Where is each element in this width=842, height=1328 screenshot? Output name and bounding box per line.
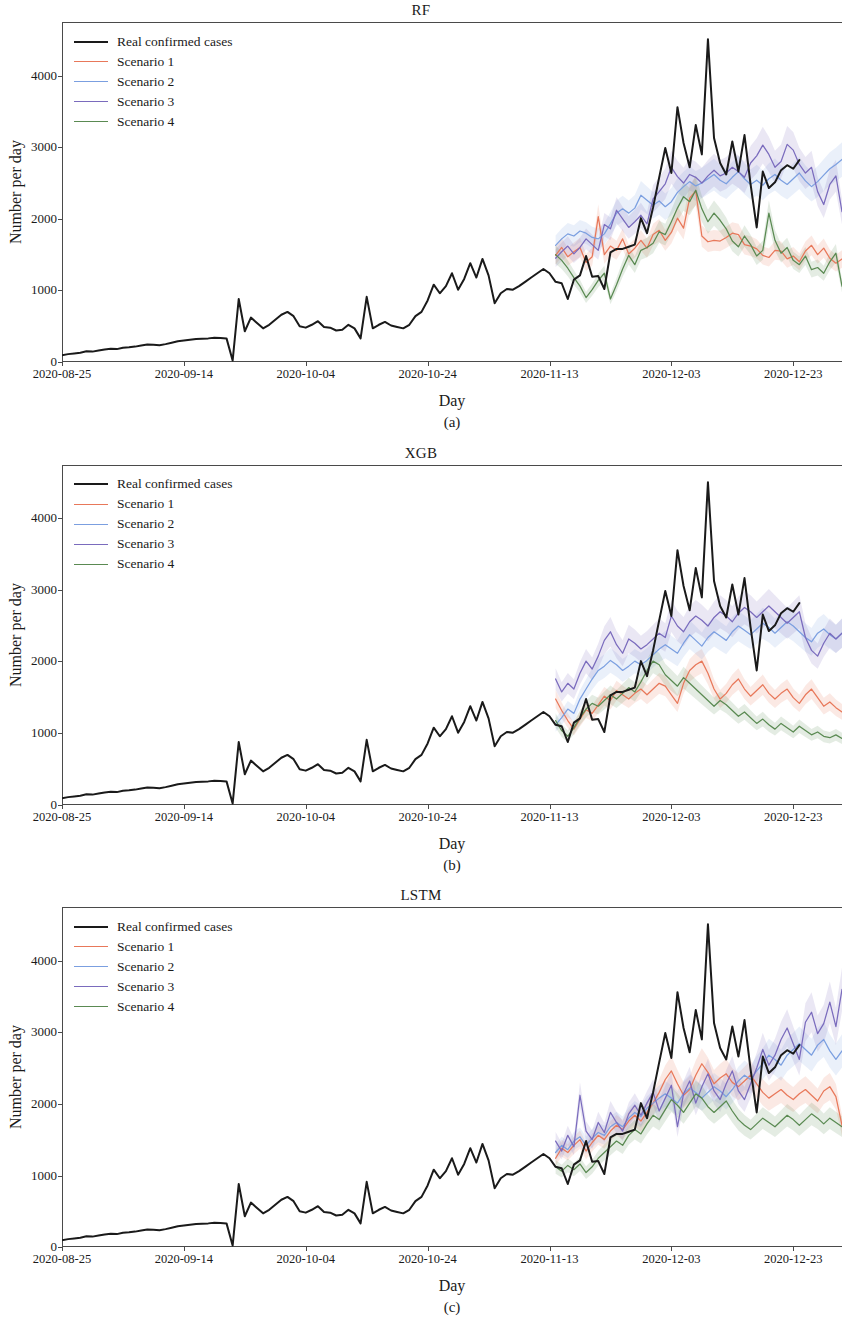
x-tick-mark: [671, 805, 672, 809]
y-tick-label: 3000: [31, 582, 57, 598]
x-axis-label: Day: [62, 392, 842, 410]
legend-line-icon: [74, 544, 108, 545]
x-tick-label: 2020-12-03: [642, 1252, 700, 1267]
y-tick-label: 2000: [31, 653, 57, 669]
legend-item-label: Scenario 2: [117, 516, 174, 532]
legend-item-label: Scenario 4: [117, 556, 174, 572]
x-tick-label: 2020-11-13: [521, 367, 579, 382]
legend-item[interactable]: Scenario 2: [74, 957, 232, 976]
legend-item[interactable]: Scenario 4: [74, 555, 232, 574]
x-tick-label: 2020-09-14: [155, 1252, 213, 1267]
legend-item[interactable]: Scenario 3: [74, 977, 232, 996]
x-tick-mark: [184, 805, 185, 809]
legend-line-icon: [74, 483, 108, 485]
legend-item-label: Scenario 3: [117, 979, 174, 995]
x-tick-label: 2020-10-04: [277, 367, 335, 382]
legend: Real confirmed casesScenario 1Scenario 2…: [72, 915, 238, 1018]
y-tick-label: 3000: [31, 139, 57, 155]
legend-line-icon: [74, 101, 108, 102]
legend-line-icon: [74, 81, 108, 82]
legend-item-label: Scenario 2: [117, 74, 174, 90]
x-tick-mark: [671, 1247, 672, 1251]
legend-line-icon: [74, 41, 108, 43]
x-tick-label: 2020-08-25: [33, 367, 91, 382]
legend-line-icon: [74, 121, 108, 122]
y-tick-label: 1000: [31, 1168, 57, 1184]
plot-area: Number per day010002000300040002020-08-2…: [62, 907, 842, 1247]
legend-line-icon: [74, 504, 108, 505]
legend-item[interactable]: Scenario 2: [74, 515, 232, 534]
legend: Real confirmed casesScenario 1Scenario 2…: [72, 30, 238, 133]
y-tick-label: 4000: [31, 510, 57, 526]
x-tick-mark: [428, 362, 429, 366]
x-tick-mark: [62, 805, 63, 809]
x-tick-label: 2020-10-04: [277, 810, 335, 825]
y-axis-label: Number per day: [7, 62, 25, 322]
x-tick-mark: [793, 362, 794, 366]
subfigure-caption: (a): [62, 414, 842, 431]
legend-item[interactable]: Scenario 2: [74, 72, 232, 91]
x-tick-mark: [793, 1247, 794, 1251]
legend-item-label: Real confirmed cases: [117, 919, 232, 935]
legend-line-icon: [74, 986, 108, 987]
subfigure-caption: (c): [62, 1299, 842, 1316]
legend-item[interactable]: Real confirmed cases: [74, 32, 232, 51]
legend-line-icon: [74, 966, 108, 967]
legend-item[interactable]: Scenario 4: [74, 112, 232, 131]
y-tick-label: 4000: [31, 953, 57, 969]
x-tick-label: 2020-12-23: [764, 810, 822, 825]
figure-root: RFNumber per day010002000300040002020-08…: [0, 0, 842, 1328]
legend-line-icon: [74, 564, 108, 565]
legend-item[interactable]: Real confirmed cases: [74, 917, 232, 936]
legend-item[interactable]: Scenario 3: [74, 535, 232, 554]
panel-title: RF: [0, 2, 842, 19]
legend-line-icon: [74, 524, 108, 525]
x-tick-label: 2020-12-23: [764, 1252, 822, 1267]
y-tick-label: 3000: [31, 1024, 57, 1040]
y-axis-label: Number per day: [7, 947, 25, 1207]
x-tick-mark: [428, 805, 429, 809]
y-tick-label: 2000: [31, 211, 57, 227]
y-axis-label: Number per day: [7, 505, 25, 765]
chart-panel-c: LSTMNumber per day010002000300040002020-…: [0, 885, 842, 1328]
x-tick-mark: [62, 362, 63, 366]
x-tick-label: 2020-10-24: [398, 367, 456, 382]
x-tick-label: 2020-12-23: [764, 367, 822, 382]
x-tick-label: 2020-10-24: [398, 1252, 456, 1267]
y-tick-label: 1000: [31, 282, 57, 298]
legend-item[interactable]: Scenario 3: [74, 92, 232, 111]
y-tick-label: 2000: [31, 1096, 57, 1112]
legend-item-label: Real confirmed cases: [117, 34, 232, 50]
x-tick-label: 2020-12-03: [642, 810, 700, 825]
x-tick-label: 2020-10-04: [277, 1252, 335, 1267]
x-tick-label: 2020-11-13: [521, 810, 579, 825]
legend-line-icon: [74, 946, 108, 947]
legend: Real confirmed casesScenario 1Scenario 2…: [72, 473, 238, 576]
x-tick-label: 2020-09-14: [155, 367, 213, 382]
x-tick-mark: [550, 362, 551, 366]
legend-item[interactable]: Scenario 1: [74, 937, 232, 956]
x-tick-label: 2020-12-03: [642, 367, 700, 382]
y-tick-label: 4000: [31, 68, 57, 84]
x-tick-label: 2020-08-25: [33, 1252, 91, 1267]
legend-item[interactable]: Scenario 4: [74, 997, 232, 1016]
legend-item[interactable]: Scenario 1: [74, 495, 232, 514]
legend-item-label: Scenario 4: [117, 999, 174, 1015]
legend-item-label: Scenario 3: [117, 536, 174, 552]
legend-line-icon: [74, 1006, 108, 1007]
x-tick-mark: [306, 362, 307, 366]
chart-panel-a: RFNumber per day010002000300040002020-08…: [0, 0, 842, 443]
legend-item[interactable]: Scenario 1: [74, 52, 232, 71]
legend-item-label: Real confirmed cases: [117, 476, 232, 492]
x-tick-label: 2020-09-14: [155, 810, 213, 825]
y-tick-label: 1000: [31, 725, 57, 741]
x-tick-mark: [550, 805, 551, 809]
plot-area: Number per day010002000300040002020-08-2…: [62, 465, 842, 805]
x-tick-label: 2020-08-25: [33, 810, 91, 825]
legend-item[interactable]: Real confirmed cases: [74, 475, 232, 494]
legend-item-label: Scenario 1: [117, 54, 174, 70]
x-tick-label: 2020-10-24: [398, 810, 456, 825]
legend-item-label: Scenario 1: [117, 496, 174, 512]
subfigure-caption: (b): [62, 857, 842, 874]
x-tick-label: 2020-11-13: [521, 1252, 579, 1267]
